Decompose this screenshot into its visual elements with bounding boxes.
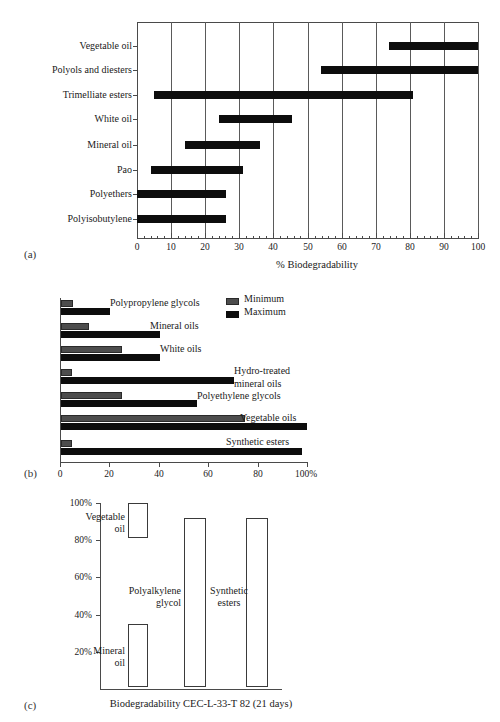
panel-a-xtick-60 xyxy=(342,233,343,239)
panel-a-range-bar-trimelliate-esters xyxy=(154,91,413,99)
panel-a-gridline-40 xyxy=(273,22,274,238)
panel-a-gridline-80 xyxy=(410,22,411,238)
panel-a-gridline-30 xyxy=(239,22,240,238)
panel-b-category-label-polyethylene-glycols: Polyethylene glycols xyxy=(197,390,281,401)
figure-container: Vegetable oil Polyols and diesters Trime… xyxy=(0,0,500,722)
panel-b-legend-swatch-maximum xyxy=(226,311,239,318)
panel-b-bar-min-polyethylene-glycols xyxy=(61,392,122,399)
panel-a-range-bar-polyisobutylene xyxy=(137,215,226,223)
panel-c-ytick-label-80: 80% xyxy=(58,535,92,545)
panel-a-xtick-minor xyxy=(253,236,254,239)
panel-c-bar-label-mineral-oil-line1: Mineral xyxy=(62,645,125,657)
panel-a-xtick-0 xyxy=(137,233,138,239)
panel-a-gridline-100 xyxy=(478,22,479,238)
panel-c-bar-label-polyalkylene-glycol-line1: Polyalkylene xyxy=(117,585,181,597)
panel-c-bar-label-vegetable-oil-line2: oil xyxy=(62,523,125,535)
panel-a-tick-2 xyxy=(133,95,137,96)
panel-a-range-bar-white-oil xyxy=(219,115,292,123)
panel-a-xtick-minor xyxy=(369,236,370,239)
panel-a-gridline-90 xyxy=(444,22,445,238)
panel-b-xtick-label-20: 20 xyxy=(97,469,121,479)
panel-a-xtick-minor xyxy=(424,236,425,239)
panel-b-category-label-mineral-oils: Mineral oils xyxy=(150,320,199,331)
panel-b-category-label-hydro-treated-line1: Hydro-treated xyxy=(234,365,290,376)
panel-a-xtick-minor xyxy=(246,236,247,239)
panel-c-ytick-label-60: 60% xyxy=(58,572,92,582)
panel-a-xtick-minor xyxy=(287,236,288,239)
panel-a-xtick-minor xyxy=(191,236,192,239)
panel-a-xtick-minor xyxy=(198,236,199,239)
panel-b-xtick-20 xyxy=(109,462,110,467)
panel-a-xtick-minor xyxy=(151,236,152,239)
panel-a-category-label-0: Vegetable oil xyxy=(20,40,132,51)
panel-a-xtick-minor xyxy=(362,236,363,239)
panel-a-xtick-minor xyxy=(403,236,404,239)
panel-a-xtick-minor xyxy=(328,236,329,239)
panel-a-xtick-minor xyxy=(259,236,260,239)
panel-c-ytick-60 xyxy=(96,577,101,578)
panel-a-category-label-4: Mineral oil xyxy=(20,139,132,150)
panel-a-xtick-100 xyxy=(478,233,479,239)
panel-a-xtick-minor xyxy=(178,236,179,239)
panel-a-xtick-minor xyxy=(430,236,431,239)
panel-b-bar-min-vegetable-oils xyxy=(61,415,245,422)
panel-a-xtick-minor xyxy=(322,236,323,239)
panel-a-xtick-minor xyxy=(390,236,391,239)
panel-a-xtick-label-0: 0 xyxy=(125,242,149,252)
panel-a-xtick-minor xyxy=(232,236,233,239)
panel-b-xtick-40 xyxy=(159,462,160,467)
panel-a-xtick-minor xyxy=(417,236,418,239)
panel-a-gridline-20 xyxy=(205,22,206,238)
panel-a-xtick-80 xyxy=(410,233,411,239)
panel-b-xtick-60 xyxy=(208,462,209,467)
panel-a-xtick-20 xyxy=(205,233,206,239)
panel-a-label: (a) xyxy=(24,248,36,260)
panel-b-bar-min-synthetic-esters xyxy=(61,440,72,447)
panel-b-category-label-polypropylene-glycols: Polypropylene glycols xyxy=(110,297,200,308)
panel-a-range-bar-mineral-oil xyxy=(185,141,260,149)
panel-a-range-bar-polyols-and-diesters xyxy=(321,66,478,74)
panel-a-xtick-30 xyxy=(239,233,240,239)
panel-a-x-axis-title: % Biodegradability xyxy=(237,259,397,270)
panel-b-label: (b) xyxy=(24,467,37,479)
panel-c-ytick-80 xyxy=(96,540,101,541)
panel-a-xtick-minor xyxy=(396,236,397,239)
panel-c-bar-polyalkylene-glycol xyxy=(184,518,206,687)
panel-a-tick-5 xyxy=(133,170,137,171)
panel-b-category-label-hydro-treated-line2: mineral oils xyxy=(234,378,282,389)
panel-a-xtick-minor xyxy=(157,236,158,239)
panel-b-bar-max-mineral-oils xyxy=(61,331,160,338)
panel-a-gridline-50 xyxy=(308,22,309,238)
panel-a-xtick-label-70: 70 xyxy=(364,242,388,252)
panel-c-bar-mineral-oil xyxy=(128,624,148,687)
panel-c-bar-vegetable-oil xyxy=(128,503,148,538)
panel-a-xtick-minor xyxy=(451,236,452,239)
panel-a-xtick-label-40: 40 xyxy=(261,242,285,252)
panel-c-bar-label-synthetic-esters-line2: esters xyxy=(209,597,249,609)
panel-c-ytick-40 xyxy=(96,615,101,616)
panel-a-xtick-minor xyxy=(383,236,384,239)
panel-b-category-label-synthetic-esters: Synthetic esters xyxy=(226,436,289,447)
panel-a-category-label-2: Trimelliate esters xyxy=(10,89,132,100)
panel-a-xtick-minor xyxy=(144,236,145,239)
panel-a-xtick-label-80: 80 xyxy=(398,242,422,252)
panel-a-range-bar-vegetable-oil xyxy=(389,42,478,50)
panel-b-xtick-80 xyxy=(258,462,259,467)
panel-c-bar-label-mineral-oil-line2: oil xyxy=(62,657,125,669)
panel-a-xtick-minor xyxy=(471,236,472,239)
panel-a-xtick-minor xyxy=(219,236,220,239)
panel-a-category-label-5: Pao xyxy=(20,164,132,175)
panel-a-y-axis xyxy=(137,22,138,238)
panel-b-bar-max-vegetable-oils xyxy=(61,423,307,430)
panel-a-xtick-label-30: 30 xyxy=(227,242,251,252)
panel-a-category-label-7: Polyisobutylene xyxy=(10,213,132,224)
panel-c-ytick-label-100: 100% xyxy=(58,498,92,508)
panel-a-xtick-minor xyxy=(185,236,186,239)
panel-a-xtick-minor xyxy=(225,236,226,239)
panel-a-xtick-minor xyxy=(437,236,438,239)
panel-b-xtick-100 xyxy=(307,462,308,467)
panel-a-xtick-50 xyxy=(308,233,309,239)
panel-b-bar-min-mineral-oils xyxy=(61,323,89,330)
panel-b-xtick-0 xyxy=(60,462,61,467)
panel-a-xtick-minor xyxy=(464,236,465,239)
